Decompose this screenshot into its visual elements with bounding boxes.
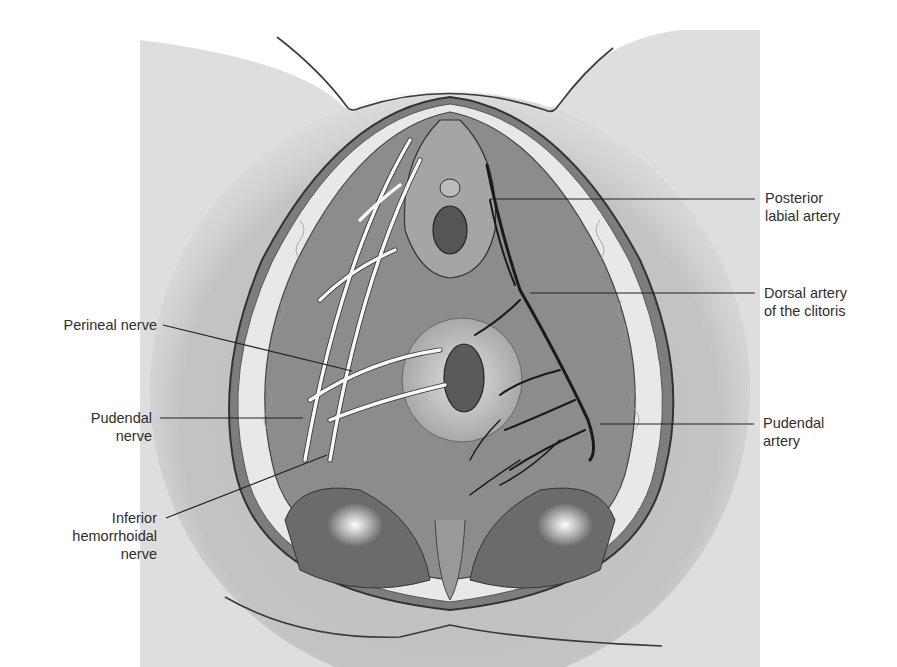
label-inferior-hemorrhoidal-nerve: Inferior hemorrhoidal nerve bbox=[72, 509, 157, 563]
label-pudendal-nerve: Pudendal nerve bbox=[91, 409, 152, 445]
label-pudendal-artery: Pudendal artery bbox=[763, 414, 824, 450]
label-posterior-labial-artery: Posterior labial artery bbox=[765, 189, 840, 225]
label-perineal-nerve: Perineal nerve bbox=[64, 316, 158, 334]
label-dorsal-artery-clitoris: Dorsal artery of the clitoris bbox=[764, 284, 847, 320]
